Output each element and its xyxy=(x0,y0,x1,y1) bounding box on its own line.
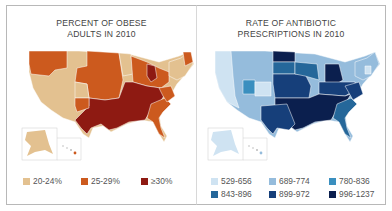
legend-label: ≥30% xyxy=(151,176,172,186)
legend-item: 843-896 xyxy=(211,189,252,199)
obesity-map-title: PERCENT OF OBESE ADULTS IN 2010 xyxy=(7,18,196,40)
legend-label: 20-24% xyxy=(33,176,62,186)
legend-item: 780-836 xyxy=(329,176,370,186)
title-line-2: PRESCRIPTIONS IN 2010 xyxy=(197,29,385,40)
title-line-2: ADULTS IN 2010 xyxy=(7,29,196,40)
legend-swatch xyxy=(81,178,88,185)
antibiotic-map-panel: RATE OF ANTIBIOTIC PRESCRIPTIONS IN 2010 xyxy=(196,5,386,205)
obesity-legend: 20-24% 25-29% ≥30% xyxy=(23,176,193,188)
legend-label: 25-29% xyxy=(91,176,120,186)
legend-swatch xyxy=(211,178,218,185)
legend-label: 899-972 xyxy=(279,189,310,199)
legend-item: 25-29% xyxy=(81,176,120,186)
legend-label: 689-774 xyxy=(279,176,310,186)
legend-label: 996-1237 xyxy=(339,189,374,199)
legend-item: 996-1237 xyxy=(329,189,374,199)
legend-item: ≥30% xyxy=(141,176,172,186)
legend-swatch xyxy=(141,178,148,185)
title-line-1: PERCENT OF OBESE xyxy=(7,18,196,29)
antibiotic-legend: 529-656 689-774 780-836 843-896 899-972 … xyxy=(211,176,387,202)
us-obesity-choropleth-map xyxy=(19,46,199,161)
legend-swatch xyxy=(23,178,30,185)
legend-swatch xyxy=(211,191,218,198)
legend-item: 689-774 xyxy=(269,176,310,186)
legend-item: 899-972 xyxy=(269,189,310,199)
obesity-map-panel: PERCENT OF OBESE ADULTS IN 2010 xyxy=(6,5,196,205)
antibiotic-map-title: RATE OF ANTIBIOTIC PRESCRIPTIONS IN 2010 xyxy=(197,18,385,40)
legend-item: 529-656 xyxy=(211,176,252,186)
legend-item: 20-24% xyxy=(23,176,62,186)
legend-label: 780-836 xyxy=(339,176,370,186)
legend-swatch xyxy=(269,178,276,185)
legend-label: 529-656 xyxy=(221,176,252,186)
legend-label: 843-896 xyxy=(221,189,252,199)
legend-swatch xyxy=(269,191,276,198)
us-antibiotic-choropleth-map xyxy=(205,46,385,161)
title-line-1: RATE OF ANTIBIOTIC xyxy=(197,18,385,29)
legend-swatch xyxy=(329,191,336,198)
legend-swatch xyxy=(329,178,336,185)
